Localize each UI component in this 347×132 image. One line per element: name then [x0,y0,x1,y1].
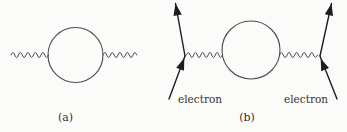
photon-wavy-line-right [103,53,137,58]
loop-circle-b [222,21,280,79]
loop-circle [48,28,103,83]
caption-a: (a) [58,111,73,124]
feynman-diagram-canvas: (a) electron electron (b) [0,0,347,132]
arrowhead-right-bottom [321,59,329,72]
photon-wavy-line-left [11,53,49,58]
diagram-b: electron electron (b) [169,4,337,125]
caption-b: (b) [239,111,255,124]
photon-wavy-line-b-right [280,53,318,58]
electron-label-right: electron [284,93,328,105]
diagram-a: (a) [11,28,137,125]
feynman-diagram-figure: (a) electron electron (b) [0,0,347,132]
arrowhead-left-bottom [176,58,184,71]
arrowhead-left-top [174,4,182,17]
photon-wavy-line-b-left [187,53,223,58]
electron-label-left: electron [178,93,222,105]
